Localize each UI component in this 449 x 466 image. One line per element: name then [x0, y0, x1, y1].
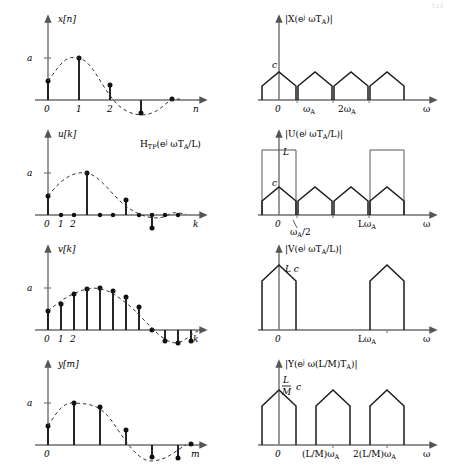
signal-label-X: |X(ej ωTA)|	[285, 13, 333, 26]
row-x-freq-plot: |X(ej ωTA)| c 0 ωA 2ωA ω	[258, 13, 430, 116]
axis-label-k-v: k	[193, 334, 198, 344]
y-tick-a-v: a	[27, 283, 32, 293]
axis-label-omega-U: ω	[423, 219, 430, 229]
row-y-freq-plot: |Y(ej ω(L/M)TA)| L M c 0 (L/M)ωA 2(L/M)ω…	[258, 358, 430, 461]
x-tick-2-v: 2	[69, 334, 76, 344]
amplitude-label-num-L: L	[282, 375, 289, 385]
axis-label-n: n	[193, 104, 199, 114]
signal-label-U: |U(ej ωTA/L)|	[285, 128, 343, 141]
row-y-time-plot: y[m] a 0 m	[27, 359, 200, 461]
axis-label-k-u: k	[193, 219, 198, 229]
x-tick-LwA-U: LωA	[358, 219, 376, 231]
x-tick-0-V: 0	[275, 334, 281, 344]
axis-label-omega-X: ω	[423, 104, 430, 114]
x-tick-0-U: 0	[275, 219, 281, 229]
amplitude-label-tail-c: c	[296, 382, 301, 392]
amplitude-label-c-x: c	[272, 60, 277, 70]
row-v-time-plot: v[k] a 0 1 2 k	[27, 244, 200, 346]
x-tick-2-x: 2	[106, 104, 113, 114]
amplitude-label-den-M: M	[281, 387, 292, 397]
signal-label-x: x[n]	[58, 14, 76, 24]
multirate-figure: 123 x[n] a 0 1 2 n |X(ej ωTA)|	[0, 0, 449, 466]
axis-label-m: m	[191, 449, 200, 459]
row-x-time-plot: x[n] a 0 1 2 n	[27, 14, 200, 116]
y-tick-a-u: a	[27, 168, 32, 178]
signal-label-Y: |Y(ej ω(L/M)TA)|	[285, 358, 358, 371]
axis-label-omega-Y: ω	[423, 449, 430, 459]
signal-label-y: y[m]	[57, 359, 79, 369]
x-tick-1-v: 1	[58, 334, 64, 344]
page-number: 123	[432, 2, 443, 9]
x-tick-LMwA-Y: (L/M)ωA	[302, 449, 340, 461]
x-tick-wA-X: ωA	[303, 104, 315, 116]
signal-label-V: |V(ej ωTA/L)|	[285, 243, 342, 256]
row-v-freq-plot: |V(ej ωTA/L)| L c 0 LωA ω	[258, 243, 430, 346]
x-tick-0-x: 0	[44, 104, 50, 114]
x-tick-0-y: 0	[44, 449, 50, 459]
signal-label-v: v[k]	[58, 244, 76, 254]
x-tick-2wA-X: 2ωA	[338, 104, 356, 116]
y-tick-a-x: a	[27, 53, 32, 63]
filter-height-label-L: L	[282, 147, 289, 157]
x-tick-0-Y: 0	[275, 449, 281, 459]
x-tick-0-X: 0	[275, 104, 281, 114]
x-tick-0-u: 0	[44, 219, 50, 229]
x-tick-LwA-V: LωA	[358, 334, 376, 346]
x-tick-1-u: 1	[58, 219, 64, 229]
x-tick-0-v: 0	[44, 334, 50, 344]
axis-label-omega-V: ω	[423, 334, 430, 344]
x-tick-2LMwA-Y: 2(L/M)ωA	[353, 449, 396, 461]
y-tick-a-y: a	[27, 398, 32, 408]
signal-label-u: u[k]	[58, 129, 77, 139]
x-tick-wA2-U: ωA/2	[290, 227, 311, 239]
x-tick-2-u: 2	[69, 219, 76, 229]
x-tick-1-x: 1	[76, 104, 82, 114]
amplitude-label-c-u: c	[272, 178, 277, 188]
filter-label-HTP: HTP(ej ωTA/L)	[140, 138, 201, 151]
figure-canvas: x[n] a 0 1 2 n |X(ej ωTA)| c 0 ωA 2ωA ω	[0, 0, 449, 466]
row-u-freq-plot: |U(ej ωTA/L)| HTP(ej ωTA/L) L c 0 ωA/2 L…	[140, 128, 430, 239]
